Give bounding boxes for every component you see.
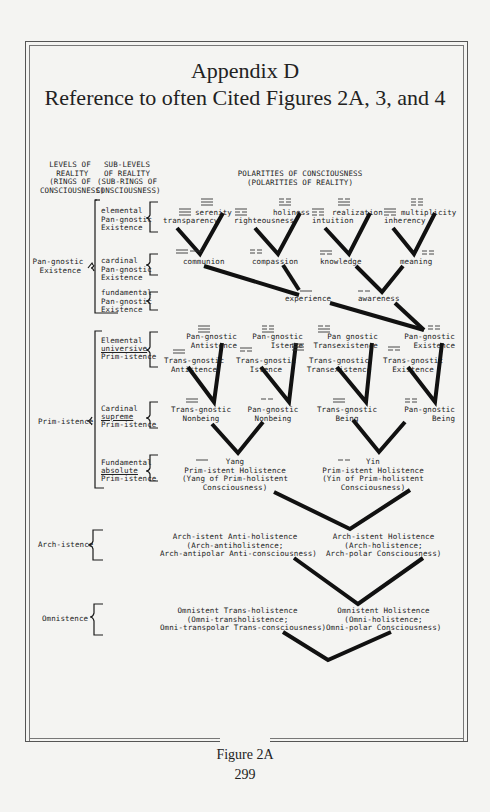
brace-fundamental-pg: [146, 292, 158, 310]
figure-caption: Figure 2A: [0, 747, 490, 763]
brace-elemental-pi: [146, 332, 158, 367]
brace-fundamental-pi: [146, 455, 158, 481]
bracket-prim-istence: [95, 331, 104, 488]
book-page: Appendix D Reference to often Cited Figu…: [0, 0, 490, 812]
bracket-pan-gnostic: [95, 200, 118, 313]
brace-cardinal-pg: [146, 254, 158, 275]
diagram-lines: [0, 0, 490, 812]
brace-elemental-pg: [146, 202, 158, 232]
brace-omnistence: [90, 604, 103, 635]
brace-arch-istence: [88, 530, 103, 560]
brace-cardinal-pi: [146, 402, 158, 428]
page-number: 299: [0, 767, 490, 783]
